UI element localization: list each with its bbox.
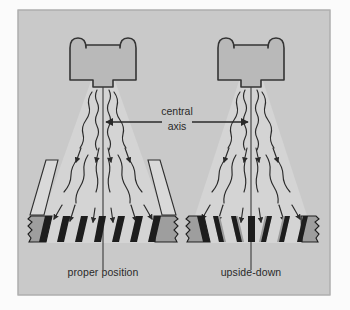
- figure-root: central axis proper position upside-down: [0, 0, 350, 310]
- left-panel-caption: proper position: [68, 266, 139, 278]
- central-axis-label-line1: central: [161, 105, 193, 117]
- diagram-canvas: central axis proper position upside-down: [0, 0, 350, 310]
- left-lamp-head: [70, 38, 136, 87]
- right-tooth-center: [248, 216, 255, 242]
- central-axis-label-line2: axis: [168, 120, 187, 132]
- right-lamp-head: [218, 38, 284, 87]
- left-head-body: [70, 38, 136, 87]
- right-head-body: [218, 38, 284, 87]
- right-panel-caption: upside-down: [221, 266, 282, 278]
